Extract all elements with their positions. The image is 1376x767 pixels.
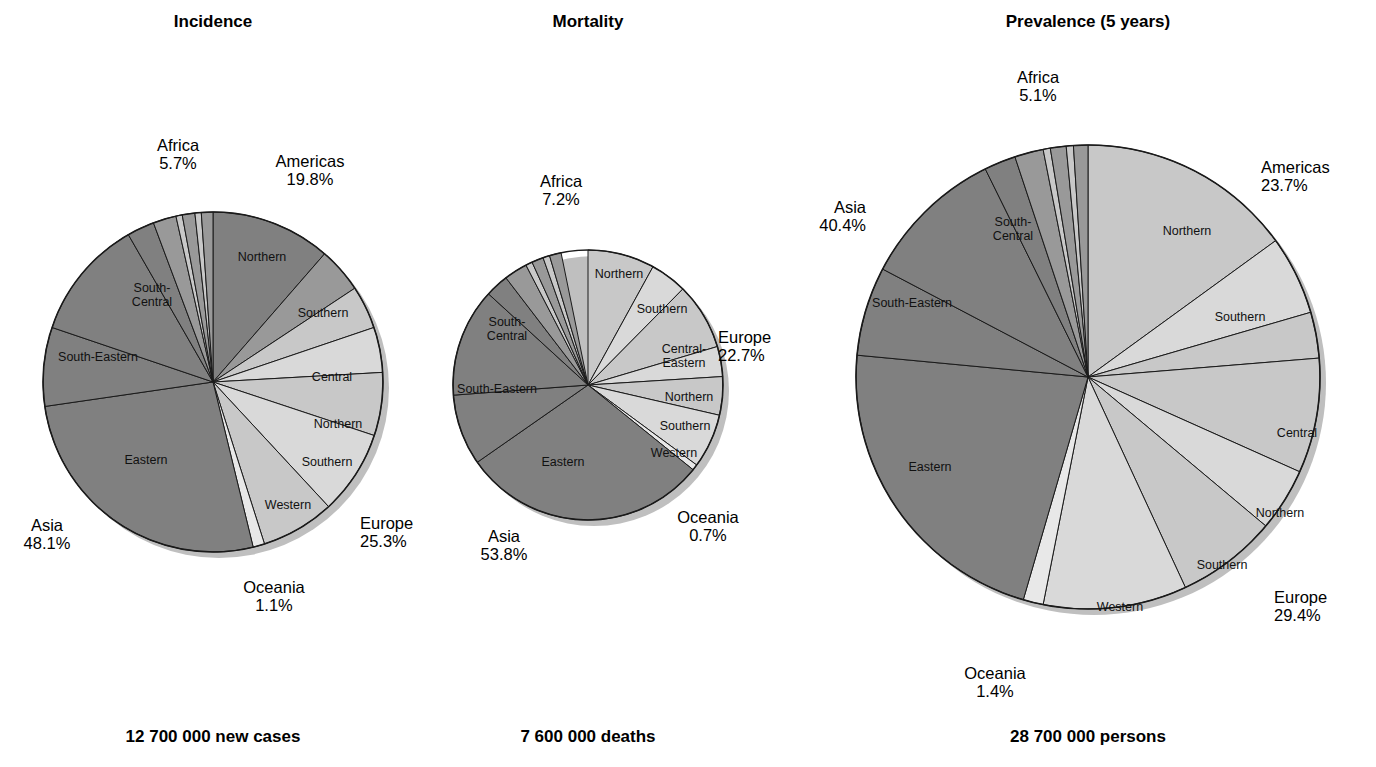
slice-label-europe-northern: Northern	[1256, 507, 1305, 521]
callout-oceania-prevalence: Oceania 1.4%	[964, 664, 1025, 701]
callout-africa-prevalence: Africa 5.1%	[1017, 68, 1059, 105]
pie-prevalence-svg	[0, 0, 1376, 700]
callout-oceania-name: Oceania	[964, 664, 1025, 682]
callout-americas-prevalence: Americas 23.7%	[1261, 158, 1330, 195]
callout-africa-name: Africa	[1017, 68, 1059, 86]
pie-chart-figure: Incidence Africa 5.7% Americas 19.8% Eur…	[0, 0, 1376, 767]
callout-asia-prevalence: Asia 40.4%	[819, 198, 866, 235]
callout-europe-pct: 29.4%	[1274, 606, 1321, 624]
slice-label-americas-northern: Northern	[1163, 225, 1212, 239]
panel-footer-mortality: 7 600 000 deaths	[520, 727, 655, 747]
slice-label-asia-south-central-line1: South-	[995, 215, 1032, 229]
slice-label-asia-south-central: South- Central	[993, 216, 1033, 244]
callout-americas-pct: 23.7%	[1261, 176, 1308, 194]
panel-footer-incidence: 12 700 000 new cases	[126, 727, 301, 747]
slice-label-asia-eastern: Eastern	[908, 461, 951, 475]
callout-americas-name: Americas	[1261, 158, 1330, 176]
callout-oceania-pct: 1.4%	[976, 682, 1014, 700]
callout-africa-pct: 5.1%	[1019, 86, 1057, 104]
panel-footer-prevalence: 28 700 000 persons	[1010, 727, 1166, 747]
callout-europe-prevalence: Europe 29.4%	[1274, 588, 1327, 625]
pie-prevalence	[0, 0, 1376, 700]
slice-label-europe-southern: Southern	[1197, 559, 1248, 573]
slice-label-asia-south-eastern: South-Eastern	[872, 297, 952, 311]
slice-label-europe-western: Western	[1097, 601, 1143, 615]
slice-label-asia-south-central-line2: Central	[993, 229, 1033, 243]
callout-europe-name: Europe	[1274, 588, 1327, 606]
callout-asia-name: Asia	[834, 198, 866, 216]
slice-label-europe-central: Central	[1277, 427, 1317, 441]
pie-prevalence-slices	[856, 145, 1326, 615]
callout-asia-pct: 40.4%	[819, 216, 866, 234]
slice-label-americas-southern: Southern	[1215, 311, 1266, 325]
